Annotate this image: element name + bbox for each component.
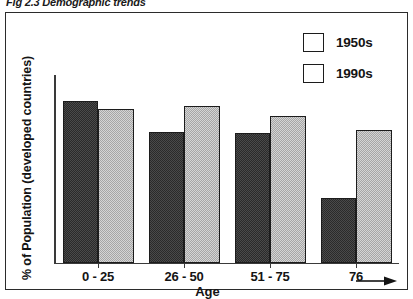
bar-1950s-26-50 [149, 132, 185, 263]
legend-item-1990s: 1990s [303, 62, 395, 85]
x-axis-tick [184, 263, 185, 268]
x-axis-tick [270, 263, 271, 268]
figure-caption: Fig 2.3 Demographic trends [6, 0, 146, 8]
legend-label-1990s: 1990s [336, 66, 373, 81]
y-axis-title: % of Population (developed countries) [20, 53, 34, 283]
x-axis-title: Age [6, 284, 409, 299]
bar-1950s-76 [321, 198, 357, 263]
x-axis-tick [98, 263, 99, 268]
legend-item-1950s: 1950s [303, 31, 395, 54]
bar-1950s-0-25 [63, 101, 99, 263]
legend-label-1950s: 1950s [336, 35, 373, 50]
x-axis-label-51-75: 51 - 75 [225, 269, 315, 284]
bar-1990s-0-25 [98, 109, 134, 263]
x-axis-label-0-25: 0 - 25 [53, 269, 143, 284]
bar-1990s-51-75 [270, 116, 306, 263]
bar-1990s-76 [356, 130, 392, 263]
x-axis-label-26-50: 26 - 50 [139, 269, 229, 284]
figure-frame: % of Population (developed countries) 0 … [5, 12, 408, 290]
chart-legend: 1950s 1990s [303, 31, 395, 93]
bar-1990s-26-50 [184, 106, 220, 263]
x-axis-tick [356, 263, 357, 268]
bar-1950s-51-75 [235, 133, 271, 263]
legend-swatch-1990s [303, 64, 324, 83]
legend-swatch-1950s [303, 33, 324, 52]
